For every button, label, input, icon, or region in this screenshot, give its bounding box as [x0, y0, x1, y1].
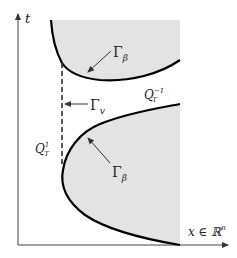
diagram-canvas: t Γβ Γv Q−1T Q1T Γβ x ∈ ℝn — [0, 0, 237, 258]
gamma-v-label: Γv — [90, 97, 105, 116]
q-minus-label: Q−1T — [144, 87, 164, 104]
q-plus-label: Q1T — [35, 141, 50, 158]
x-axis-label: x ∈ ℝn — [188, 224, 226, 239]
t-axis-label: t — [25, 11, 31, 26]
